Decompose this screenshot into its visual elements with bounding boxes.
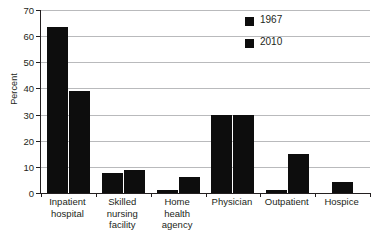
x-axis-category-labels: InpatienthospitalSkillednursingfacilityH… <box>40 196 370 240</box>
bar-1967-1 <box>102 173 123 193</box>
figure-caption <box>10 243 370 250</box>
y-tick-label-60: 60 <box>23 31 34 42</box>
bar-2010-2 <box>179 177 200 193</box>
bar-2010-0 <box>69 91 90 193</box>
bar-1967-4 <box>266 190 287 193</box>
y-tick-label-50: 50 <box>23 57 34 68</box>
legend-entry-1967: 1967 <box>245 14 335 36</box>
y-tick-label-10: 10 <box>23 161 34 172</box>
chart-legend: 1967 2010 <box>245 14 335 58</box>
legend-entry-2010: 2010 <box>245 36 335 58</box>
y-tick-label-30: 30 <box>23 109 34 120</box>
bar-1967-2 <box>157 190 178 193</box>
bar-chart-figure: Percent 010203040506070 Inpatienthospita… <box>0 0 378 250</box>
y-tick-mark-0 <box>36 193 40 194</box>
legend-swatch-2010-icon <box>245 39 254 48</box>
legend-swatch-1967-icon <box>245 17 254 26</box>
bar-1967-0 <box>47 27 68 193</box>
y-tick-mark-20 <box>36 141 40 142</box>
bar-1967-3 <box>211 115 232 193</box>
y-tick-mark-40 <box>36 88 40 89</box>
y-tick-mark-60 <box>36 36 40 37</box>
y-tick-label-20: 20 <box>23 135 34 146</box>
x-category-label-0: Inpatienthospital <box>40 196 95 219</box>
y-tick-mark-70 <box>36 10 40 11</box>
x-tick-mark-end <box>370 193 371 197</box>
x-category-label-5: Hospice <box>314 196 369 208</box>
y-axis-title: Percent <box>9 54 19 124</box>
bar-2010-5 <box>332 182 353 193</box>
bar-2010-3 <box>233 115 254 193</box>
y-tick-mark-50 <box>36 62 40 63</box>
bar-2010-1 <box>124 170 145 193</box>
legend-label-2010: 2010 <box>260 36 282 47</box>
legend-label-1967: 1967 <box>260 14 282 25</box>
y-tick-label-0: 0 <box>29 188 34 199</box>
y-tick-label-70: 70 <box>23 5 34 16</box>
bar-2010-4 <box>288 154 309 193</box>
y-tick-mark-10 <box>36 167 40 168</box>
y-tick-mark-30 <box>36 115 40 116</box>
x-category-label-3: Physician <box>205 196 260 208</box>
x-category-label-2: Homehealthagency <box>150 196 205 231</box>
x-category-label-1: Skillednursingfacility <box>95 196 150 231</box>
y-tick-label-40: 40 <box>23 83 34 94</box>
x-category-label-4: Outpatient <box>259 196 314 208</box>
